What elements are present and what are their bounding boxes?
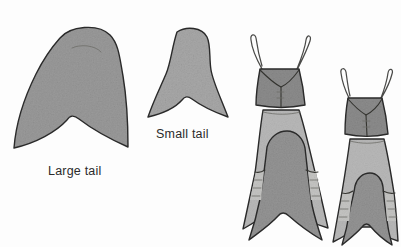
tail-morphology-figure: Large tail Small tail	[0, 0, 401, 247]
figure-canvas: Large tail Small tail	[0, 0, 401, 247]
small-tail-label: Small tail	[156, 127, 209, 141]
large-tail-label: Large tail	[48, 164, 101, 178]
